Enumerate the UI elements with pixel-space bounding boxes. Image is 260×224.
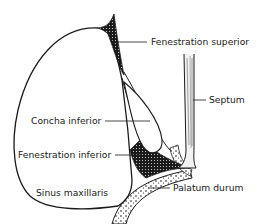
anatomy-diagram: Fenestration superior Septum Concha infe…: [0, 0, 260, 224]
label-fenestration-superior: Fenestration superior: [151, 37, 249, 46]
septum-shape: [178, 54, 196, 168]
label-palatum-durum: Palatum durum: [173, 183, 243, 192]
fenestration-superior-shape: [98, 14, 124, 75]
concha-inferior-shape: [124, 82, 162, 153]
label-concha-inferior: Concha inferior: [31, 116, 101, 125]
label-fenestration-inferior: Fenestration inferior: [18, 150, 111, 159]
label-septum: Septum: [209, 95, 245, 104]
label-sinus-maxillaris: Sinus maxillaris: [36, 188, 108, 197]
